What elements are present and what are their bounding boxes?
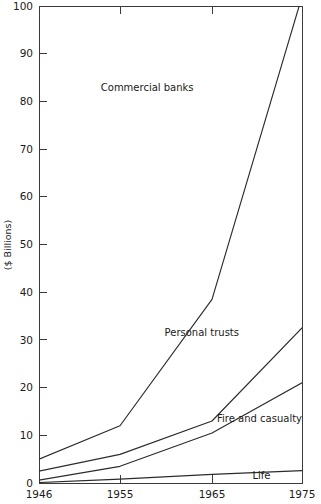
line-chart: 0102030405060708090100 1946195519651975 … <box>0 0 321 504</box>
series-label: Personal trusts <box>165 327 239 338</box>
y-tick-label: 50 <box>20 238 33 250</box>
chart-background <box>0 0 321 504</box>
y-tick-label: 80 <box>20 95 33 107</box>
series-label: Fire and casualty <box>217 413 302 424</box>
y-tick-label: 60 <box>20 190 33 202</box>
y-tick-label: 10 <box>20 429 33 441</box>
y-tick-label: 40 <box>20 286 33 298</box>
y-tick-label: 100 <box>13 0 33 12</box>
x-tick-label: 1946 <box>26 488 53 500</box>
series-label: Commercial banks <box>101 82 194 93</box>
x-tick-label: 1955 <box>107 488 134 500</box>
y-tick-label: 0 <box>26 477 33 489</box>
x-tick-label: 1975 <box>289 488 316 500</box>
y-tick-label: 30 <box>20 334 33 346</box>
x-tick-label: 1965 <box>199 488 226 500</box>
y-tick-label: 90 <box>20 47 33 59</box>
y-tick-label: 70 <box>20 143 33 155</box>
series-label: Life <box>252 470 270 481</box>
y-tick-label: 20 <box>20 381 33 393</box>
chart-container: 0102030405060708090100 1946195519651975 … <box>0 0 321 504</box>
y-axis-title: ($ Billions) <box>2 220 13 270</box>
